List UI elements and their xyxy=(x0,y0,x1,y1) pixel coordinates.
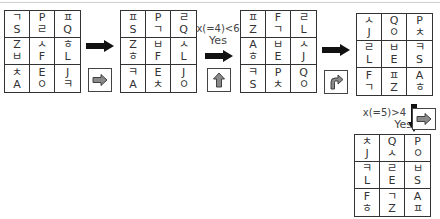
cell-bottom-symbol: J xyxy=(367,27,370,39)
cell-bottom-symbol: E xyxy=(275,51,282,63)
condition-2: x(=5)>4 Yes xyxy=(366,107,412,131)
right-arrow-operation-box-2 xyxy=(412,108,436,130)
cell-bottom-symbol: L xyxy=(364,175,370,187)
grid-cell: ㅎL xyxy=(55,38,80,65)
grid-4: ㅅJQㅇPㅊㄹLㅂEㅋSFㄱㅍZAㅎ xyxy=(356,13,433,96)
cell-bottom-symbol: E xyxy=(389,175,396,187)
cell-bottom-symbol: Z xyxy=(390,82,398,94)
top-divider xyxy=(0,2,440,3)
flow-arrow-right-icon xyxy=(86,40,114,52)
grid-cell: Eㅇ xyxy=(30,65,55,92)
flow-arrow-right-icon xyxy=(322,44,350,56)
grid-3: ㅍZFㄱㄹLAㅎㅂEㅅJㅋSPㅊQㅇ xyxy=(240,10,317,93)
grid-cell: Zㅎ xyxy=(121,38,146,65)
grid-cell: ㅅL xyxy=(171,38,196,65)
cell-bottom-symbol: F xyxy=(39,51,45,63)
cell-bottom-symbol: A xyxy=(129,79,137,91)
grid-cell: Fㄱ xyxy=(266,11,291,38)
grid-cell: ㅍZ xyxy=(382,68,407,95)
condition-2-expression: x(=5)>4 xyxy=(360,107,406,119)
cell-bottom-symbol: ㅍ xyxy=(413,203,423,215)
turn-right-operation-box xyxy=(324,70,348,94)
grid-cell: ㅋS xyxy=(241,65,266,92)
up-arrow-operation-box xyxy=(207,68,231,92)
cell-top-symbol: ㅍ xyxy=(389,70,399,82)
grid-cell: ㅍZ xyxy=(241,11,266,38)
grid-cell: Qㅇ xyxy=(382,14,407,41)
cell-top-symbol: A xyxy=(416,70,424,82)
cell-bottom-symbol: ㅇ xyxy=(179,79,189,91)
grid-cell: Fㄱ xyxy=(357,68,382,95)
cell-bottom-symbol: S xyxy=(416,54,423,66)
cell-bottom-symbol: ㅎ xyxy=(362,203,372,215)
cell-bottom-symbol: S xyxy=(250,79,257,91)
grid-cell: Jㅇ xyxy=(171,65,196,92)
cell-top-symbol: Q xyxy=(299,67,308,79)
grid-cell: ㅂE xyxy=(382,41,407,68)
grid-cell: ㄹQ xyxy=(171,11,196,38)
cell-bottom-symbol: ㄱ xyxy=(273,24,283,36)
cell-top-symbol: A xyxy=(414,191,422,203)
grid-cell: ㅅJ xyxy=(291,38,316,65)
cell-top-symbol: E xyxy=(155,67,162,79)
grid-2: ㅍSPㄱㄹQZㅎㅂFㅅLㅋAEㅊJㅇ xyxy=(120,10,197,93)
grid-cell: Aㅎ xyxy=(241,38,266,65)
grid-cell: Pㅊ xyxy=(407,14,432,41)
cell-bottom-symbol: ㅇ xyxy=(389,27,399,39)
cell-bottom-symbol: S xyxy=(14,24,21,36)
cell-bottom-symbol: J xyxy=(302,51,305,63)
grid-cell: ㅅF xyxy=(30,38,55,65)
cell-bottom-symbol: ㅎ xyxy=(248,51,258,63)
grid-cell: ㅂE xyxy=(266,38,291,65)
grid-cell: ㄹE xyxy=(380,162,405,189)
grid-cell: ㄹL xyxy=(357,41,382,68)
cell-top-symbol: F xyxy=(364,191,370,203)
cell-bottom-symbol: ㄱ xyxy=(153,24,163,36)
grid-cell: ㅍS xyxy=(121,11,146,38)
grid-cell: ㅋA xyxy=(121,65,146,92)
grid-cell: Qㅅ xyxy=(380,135,405,162)
grid-cell: Eㅊ xyxy=(146,65,171,92)
cell-bottom-symbol: E xyxy=(391,54,398,66)
grid-cell: ㄱZ xyxy=(380,189,405,216)
grid-5: ㅊJQㅅPㅇㅋLㄹEㅂSFㅎㄱZAㅍ xyxy=(354,134,431,217)
right-arrow-icon xyxy=(92,74,108,86)
grid-cell: ㅋS xyxy=(407,41,432,68)
flow-arrow-right-icon xyxy=(205,50,233,62)
grid-cell: ㅂF xyxy=(146,38,171,65)
cell-bottom-symbol: F xyxy=(155,51,161,63)
cell-bottom-symbol: ㅇ xyxy=(413,148,423,160)
up-arrow-icon xyxy=(213,72,225,88)
cell-top-symbol: ㅋ xyxy=(248,67,258,79)
cell-top-symbol: ㄱ xyxy=(387,191,397,203)
cell-bottom-symbol: ㅊ xyxy=(153,79,163,91)
grid-cell: Jㅋ xyxy=(55,65,80,92)
cell-top-symbol: F xyxy=(366,70,372,82)
cell-bottom-symbol: J xyxy=(365,148,368,160)
cell-bottom-symbol: ㅂ xyxy=(12,51,22,63)
cell-bottom-symbol: ㅊ xyxy=(273,79,283,91)
right-arrow-icon xyxy=(416,113,432,125)
grid-cell: ㅂS xyxy=(405,162,430,189)
grid-1: ㄱSPㄹㅍQZㅂㅅFㅎLㅊAEㅇJㅋ xyxy=(4,10,81,93)
cell-top-symbol: J xyxy=(66,67,69,79)
cell-top-symbol: P xyxy=(275,67,282,79)
cell-bottom-symbol: ㅋ xyxy=(63,79,73,91)
cell-bottom-symbol: ㅇ xyxy=(299,79,309,91)
grid-cell: Aㅍ xyxy=(405,189,430,216)
grid-cell: Fㅎ xyxy=(355,189,380,216)
grid-cell: Qㅇ xyxy=(291,65,316,92)
grid-cell: ㅍQ xyxy=(55,11,80,38)
cell-bottom-symbol: S xyxy=(414,175,421,187)
condition-2-result: Yes xyxy=(366,119,412,131)
grid-cell: Pㄹ xyxy=(30,11,55,38)
condition-1-result: Yes xyxy=(196,35,240,47)
grid-cell: ㄱS xyxy=(5,11,30,38)
turn-right-arrow-icon xyxy=(328,74,344,90)
grid-cell: Pㄱ xyxy=(146,11,171,38)
cell-bottom-symbol: ㅊ xyxy=(415,27,425,39)
grid-cell: ㅅJ xyxy=(357,14,382,41)
cell-bottom-symbol: ㅎ xyxy=(415,82,425,94)
cell-bottom-symbol: L xyxy=(300,24,306,36)
cell-bottom-symbol: Q xyxy=(63,24,72,36)
